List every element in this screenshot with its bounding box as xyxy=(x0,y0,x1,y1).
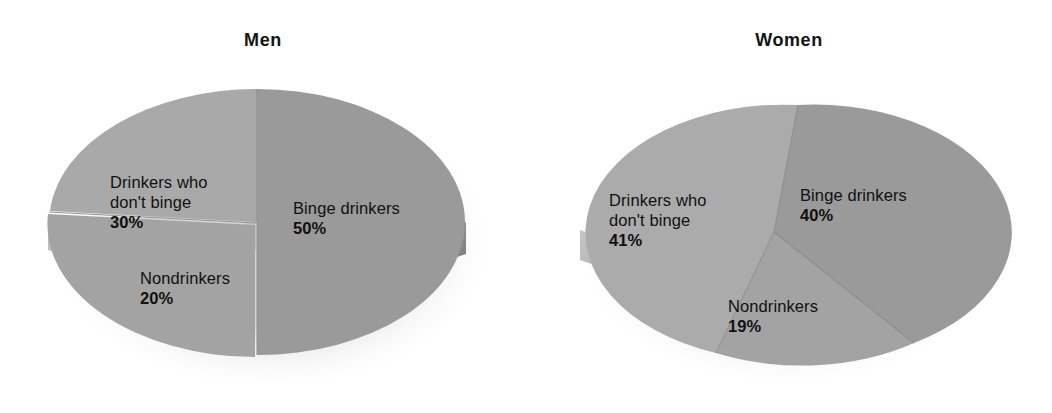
slice-percent: 41% xyxy=(609,230,706,250)
slice-percent: 40% xyxy=(800,205,907,225)
slice-name-line2: don't binge xyxy=(609,210,706,230)
pie-graphic-men xyxy=(38,72,508,402)
slice-percent: 50% xyxy=(293,218,400,238)
slice-percent: 20% xyxy=(140,288,230,308)
chart-title-men: Men xyxy=(0,30,526,51)
slice-name: Binge drinkers xyxy=(800,185,907,205)
pie-chart-women: Women xyxy=(526,0,1052,413)
slice-percent: 30% xyxy=(110,212,207,232)
slice-label-binge-men: Binge drinkers 50% xyxy=(293,198,400,238)
slice-name: Binge drinkers xyxy=(293,198,400,218)
slice-label-nondrinkers-women: Nondrinkers 19% xyxy=(728,296,818,336)
slice-label-nondrinkers-men: Nondrinkers 20% xyxy=(140,268,230,308)
slice-name: Nondrinkers xyxy=(140,268,230,288)
pie-svg-men xyxy=(38,72,508,402)
figure-canvas: Men xyxy=(0,0,1052,413)
pie-chart-men: Men xyxy=(0,0,526,413)
slice-label-drinkers-women: Drinkers who don't binge 41% xyxy=(609,190,706,250)
chart-title-women: Women xyxy=(526,30,1052,51)
slice-name: Nondrinkers xyxy=(728,296,818,316)
slice-label-binge-women: Binge drinkers 40% xyxy=(800,185,907,225)
slice-percent: 19% xyxy=(728,316,818,336)
slice-name-line2: don't binge xyxy=(110,192,207,212)
slice-name-line1: Drinkers who xyxy=(110,172,207,192)
slice-name-line1: Drinkers who xyxy=(609,190,706,210)
slice-label-drinkers-men: Drinkers who don't binge 30% xyxy=(110,172,207,232)
